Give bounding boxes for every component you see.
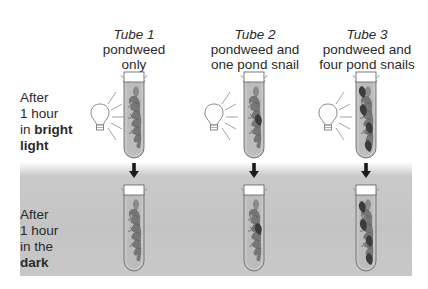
tube-2-dark — [241, 185, 267, 271]
down-arrow-icon — [249, 163, 259, 178]
diagram-graphics — [0, 0, 428, 289]
tube-2-light — [241, 72, 267, 158]
down-arrow-icon — [129, 163, 139, 178]
tube-3-light — [353, 72, 379, 158]
tube-1-dark — [121, 185, 147, 271]
tube-1-light — [121, 72, 147, 158]
light-bulb-icon — [319, 92, 352, 140]
light-bulb-icon — [91, 92, 124, 140]
tube-3-dark — [353, 185, 379, 271]
down-arrow-icon — [361, 163, 371, 178]
light-bulb-icon — [205, 92, 238, 140]
